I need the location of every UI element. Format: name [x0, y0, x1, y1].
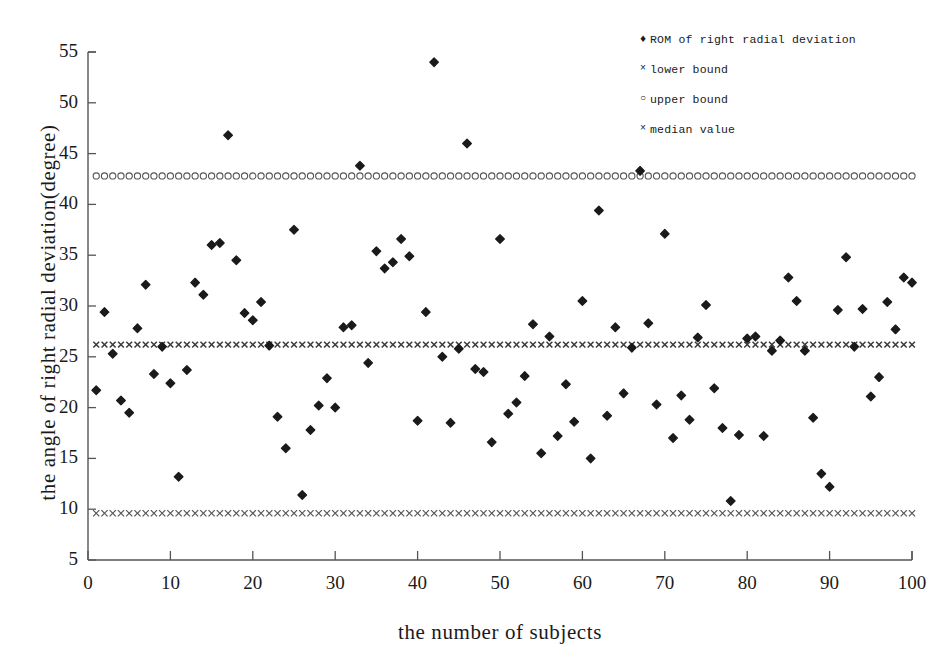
- legend-label: upper bound: [650, 93, 728, 106]
- upper-bound-series: [93, 173, 915, 179]
- scatter-plot-figure: the angle of right radial deviation(degr…: [0, 0, 952, 663]
- chart-legend: ♦ROM of right radial deviation×lower bou…: [636, 24, 856, 144]
- median-value-series: [93, 342, 915, 348]
- legend-item: ♦ROM of right radial deviation: [636, 24, 856, 54]
- legend-label: ROM of right radial deviation: [650, 33, 856, 46]
- circle-marker-icon: ○: [636, 94, 650, 104]
- cross-marker-icon: ×: [636, 124, 650, 134]
- lower-bound-series: [93, 510, 915, 516]
- legend-item: ○upper bound: [636, 84, 856, 114]
- legend-item: ×median value: [636, 114, 856, 144]
- legend-label: lower bound: [650, 63, 728, 76]
- diamond-marker-icon: ♦: [636, 34, 650, 45]
- legend-item: ×lower bound: [636, 54, 856, 84]
- cross-marker-icon: ×: [636, 64, 650, 74]
- legend-label: median value: [650, 123, 735, 136]
